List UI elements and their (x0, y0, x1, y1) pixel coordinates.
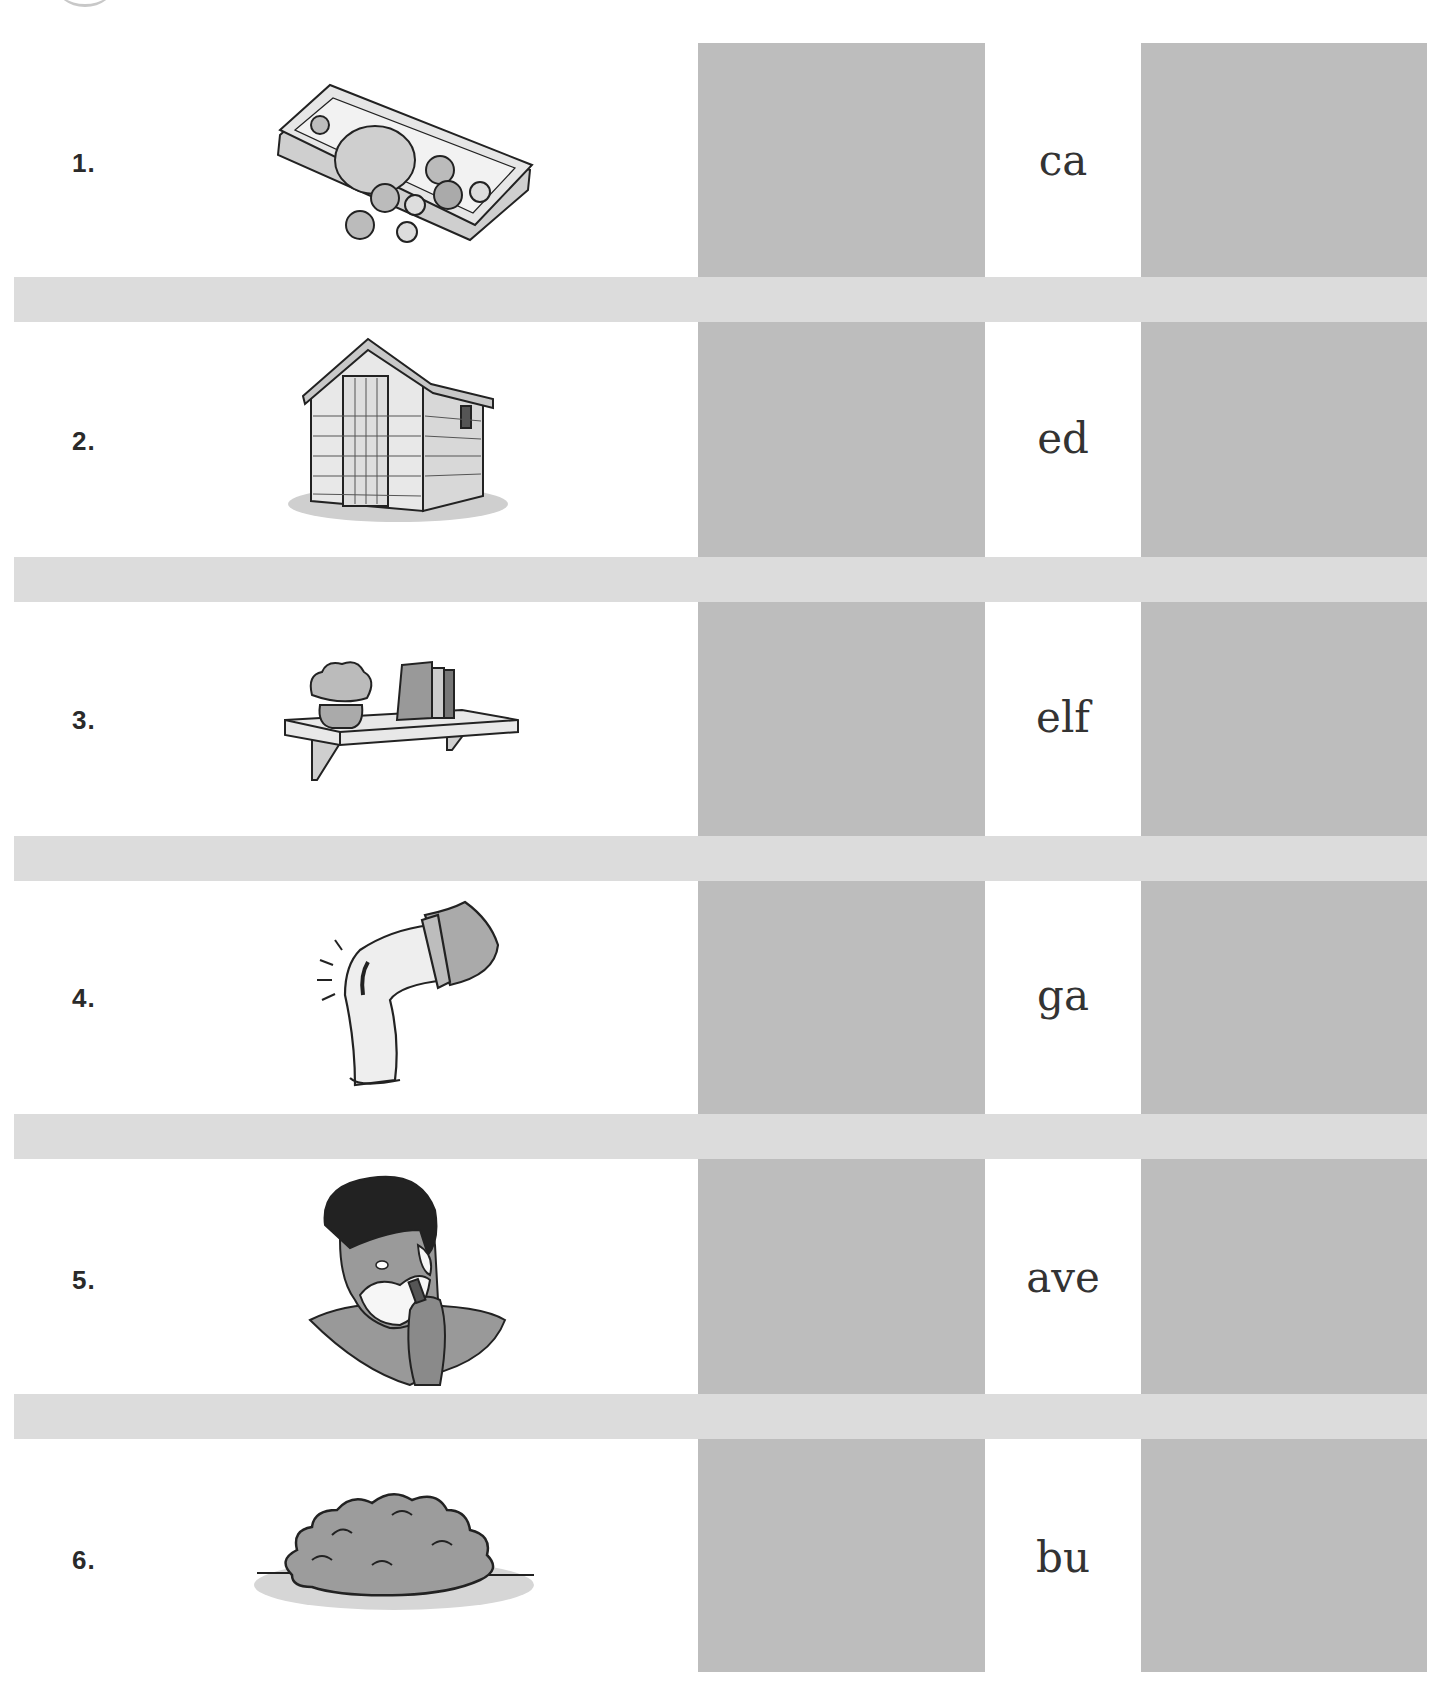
row-separator (14, 557, 1427, 602)
row-separator (14, 836, 1427, 881)
row-separator (14, 1394, 1427, 1439)
item-number: 1. (72, 148, 96, 179)
answer-box-4-left[interactable] (698, 880, 985, 1114)
bush-icon (252, 1475, 537, 1615)
answer-box-2-right[interactable] (1141, 322, 1427, 557)
shelf-icon (282, 650, 522, 790)
item-number: 6. (72, 1545, 96, 1576)
item-number: 5. (72, 1265, 96, 1296)
page-corner-decoration (55, 0, 115, 7)
answer-box-3-left[interactable] (698, 601, 985, 836)
money-icon (270, 80, 540, 245)
word-fragment: bu (985, 1533, 1141, 1582)
answer-box-6-right[interactable] (1141, 1439, 1427, 1672)
answer-box-4-right[interactable] (1141, 880, 1427, 1114)
word-fragment: ca (985, 136, 1141, 185)
answer-box-2-left[interactable] (698, 322, 985, 557)
word-fragment: ga (985, 971, 1141, 1020)
answer-box-5-right[interactable] (1141, 1158, 1427, 1394)
answer-box-6-left[interactable] (698, 1439, 985, 1672)
row-separator (14, 1114, 1427, 1159)
item-number: 2. (72, 426, 96, 457)
item-number: 4. (72, 983, 96, 1014)
shaving-man-icon (300, 1170, 510, 1390)
answer-box-1-right[interactable] (1141, 43, 1427, 277)
answer-box-1-left[interactable] (698, 43, 985, 277)
word-fragment: elf (985, 693, 1141, 742)
answer-box-5-left[interactable] (698, 1158, 985, 1394)
answer-box-3-right[interactable] (1141, 601, 1427, 836)
grazed-elbow-icon (300, 890, 510, 1090)
word-fragment: ed (985, 414, 1141, 463)
row-separator (14, 277, 1427, 322)
word-fragment: ave (985, 1253, 1141, 1302)
shed-icon (283, 336, 518, 526)
item-number: 3. (72, 705, 96, 736)
